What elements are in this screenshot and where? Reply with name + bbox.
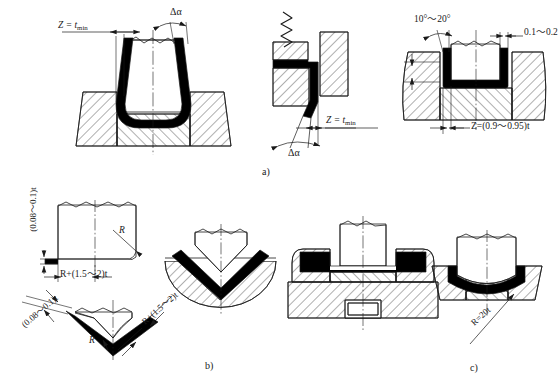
panel-a-right-view — [403, 30, 546, 134]
label-v-punch-radius: R — [89, 336, 95, 346]
panel-c-curved-bottom-view — [432, 230, 542, 344]
die-block-right — [190, 92, 231, 146]
label-springback-angle-a-left: Δα — [170, 7, 182, 17]
label-punch-radius: R — [119, 226, 125, 236]
dim-springback-angle-middle — [278, 142, 320, 146]
panel-a-left-view — [62, 22, 231, 155]
label-corner-relief: 0.1～0.2 — [524, 28, 558, 38]
pressure-pad — [273, 42, 308, 60]
dim-draft-angle — [430, 30, 452, 52]
caption-c: c) — [470, 362, 478, 373]
label-clearance-a-left: Z = tmin — [58, 21, 88, 31]
label-clearance-a-right: Z=(0.9～0.95)t — [471, 122, 530, 132]
caption-a: a) — [262, 166, 270, 177]
c2-punch — [457, 234, 516, 284]
label-draft-angle: 10°～20° — [414, 15, 451, 25]
die-block-left — [76, 92, 117, 146]
panel-a-middle-view — [273, 12, 378, 148]
panel-b-v-die-assembly — [165, 224, 276, 316]
label-clearance-a-middle: Z = tmin — [326, 116, 356, 126]
label-ridge-height: (0.08～0.1)t — [29, 174, 38, 246]
caption-b: b) — [205, 360, 213, 371]
label-ridge-offset: R+(1.5～2)t — [60, 270, 107, 280]
punch-right — [451, 41, 500, 86]
label-land-height-wrap: (1-1.5)t — [15, 45, 25, 115]
panel-c-flat-bottom-view — [288, 216, 438, 330]
label-springback-angle-a-middle: Δα — [288, 148, 300, 158]
die-shoulder-right — [512, 52, 546, 120]
punch-block-wipe — [320, 32, 348, 96]
die-block-wipe — [273, 68, 309, 106]
punch-ridge-step — [45, 259, 58, 264]
